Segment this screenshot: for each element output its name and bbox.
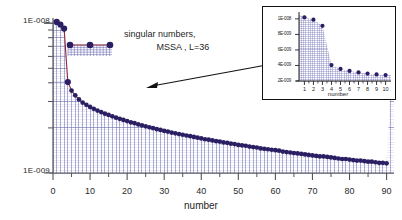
inset-y-axis-tick-label: 4E-009 xyxy=(265,62,291,67)
x-axis-tick-label: 70 xyxy=(301,186,323,196)
chart-annotation: singular numbers, MSSA , L=36 xyxy=(118,28,248,54)
x-axis-tick-label: 60 xyxy=(264,186,286,196)
annotation-line-1: singular numbers, xyxy=(118,28,248,41)
inset-chart-panel: 1E-0088E-0096E-0094E-0092E-009 123456789… xyxy=(262,6,396,100)
legend-marker-swatch xyxy=(62,36,118,58)
x-axis-tick-label: 0 xyxy=(42,186,64,196)
inset-x-axis-title: number xyxy=(271,91,402,97)
y-axis-tick-label-bottom: 1E-009 xyxy=(4,166,50,175)
x-axis-tick-label: 10 xyxy=(79,186,101,196)
inset-y-axis-tick-label: 8E-009 xyxy=(265,31,291,36)
x-axis-tick-label: 50 xyxy=(227,186,249,196)
inset-y-axis-tick-label: 2E-009 xyxy=(265,78,291,83)
figure-canvas: 1E-008 1E-009 0102030405060708090 number… xyxy=(0,0,402,220)
x-axis-tick-label: 20 xyxy=(116,186,138,196)
inset-y-axis-tick-label: 6E-009 xyxy=(265,47,291,52)
annotation-line-2: MSSA , L=36 xyxy=(118,41,248,54)
x-axis-title: number xyxy=(0,200,402,211)
y-axis-tick-label-top: 1E-008 xyxy=(4,16,50,25)
inset-pointer-arrow xyxy=(138,58,278,98)
x-axis-tick-label: 30 xyxy=(153,186,175,196)
x-axis-tick-label: 40 xyxy=(190,186,212,196)
x-axis-tick-label: 90 xyxy=(376,186,398,196)
inset-y-axis-tick-label: 1E-008 xyxy=(265,16,291,21)
x-axis-tick-label: 80 xyxy=(339,186,361,196)
